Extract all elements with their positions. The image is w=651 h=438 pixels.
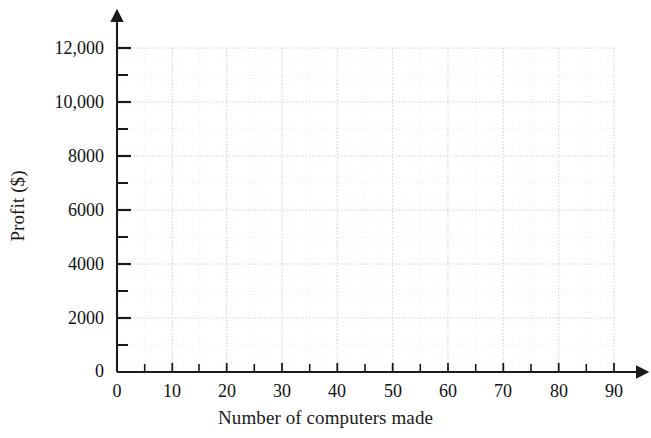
x-tick-label-50: 50 bbox=[384, 381, 402, 402]
x-tick-label-0: 0 bbox=[113, 381, 122, 402]
x-tick-label-10: 10 bbox=[163, 381, 181, 402]
x-tick-label-30: 30 bbox=[273, 381, 291, 402]
y-tick-label-0: 0 bbox=[0, 361, 104, 382]
y-axis-title: Profit ($) bbox=[7, 126, 29, 286]
x-tick-label-40: 40 bbox=[328, 381, 346, 402]
x-tick-label-90: 90 bbox=[605, 381, 623, 402]
y-tick-label-12000: 12,000 bbox=[0, 38, 104, 59]
x-tick-label-70: 70 bbox=[494, 381, 512, 402]
y-tick-label-10000: 10,000 bbox=[0, 92, 104, 113]
y-tick-label-2000: 2000 bbox=[0, 308, 104, 329]
x-tick-label-60: 60 bbox=[439, 381, 457, 402]
x-axis-title: Number of computers made bbox=[0, 407, 651, 429]
x-tick-label-20: 20 bbox=[218, 381, 236, 402]
blank-graph-figure: 12,000 10,000 8000 6000 4000 2000 0 0 10… bbox=[0, 0, 651, 438]
x-tick-label-80: 80 bbox=[550, 381, 568, 402]
